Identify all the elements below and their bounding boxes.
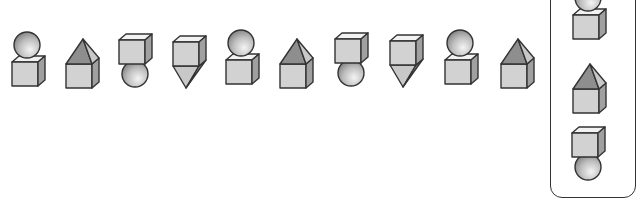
- sequence-item-pyramid-on-cube-icon: [62, 28, 104, 92]
- sequence-item-sphere-on-cube-icon: [222, 24, 264, 88]
- choice-pyramid-on-cube-icon[interactable]: [569, 53, 611, 117]
- sequence-item-pyramid-on-cube-icon: [276, 28, 318, 92]
- choice-sphere-on-cube-icon[interactable]: [569, 0, 611, 43]
- sequence-item-pyramid-on-cube-icon: [497, 28, 539, 92]
- answer-choices-box: [550, 0, 636, 198]
- sequence-item-cube-on-inverted-pyramid-icon: [386, 27, 428, 91]
- choice-cube-on-sphere-icon[interactable]: [568, 119, 610, 183]
- sequence-item-cube-on-sphere-icon: [331, 25, 373, 89]
- sequence-item-cube-on-sphere-icon: [115, 26, 157, 90]
- sequence-item-cube-on-inverted-pyramid-icon: [169, 28, 211, 92]
- sequence-item-sphere-on-cube-icon: [8, 26, 50, 90]
- sequence-item-sphere-on-cube-icon: [441, 24, 483, 88]
